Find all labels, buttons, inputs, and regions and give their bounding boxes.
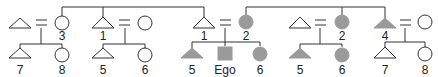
triangle-male-1: [92, 17, 114, 28]
triangle-male-5: [92, 48, 114, 58]
label-5-cousin: 5: [297, 63, 304, 77]
triangle-male-7: [9, 48, 31, 58]
marriage-b: [119, 20, 130, 25]
circle-female-3: [55, 16, 69, 30]
label-1-father: 1: [201, 29, 208, 43]
kinship-diagram: 3 7 8 1 5 6 1 2 5 Ego 6 2 5 6 4 7 8: [0, 0, 438, 77]
label-6: 6: [142, 63, 149, 77]
circle-filled-6-sibling: [253, 47, 267, 61]
label-1: 1: [100, 29, 107, 43]
label-5-sibling: 5: [189, 63, 196, 77]
marriage-a: [36, 20, 47, 25]
triangle-male-d: [289, 17, 311, 28]
label-8: 8: [59, 63, 66, 77]
label-7-cousin: 7: [382, 63, 389, 77]
circle-female-2-mother: [239, 15, 253, 29]
circle-filled-2-aunt: [335, 15, 349, 29]
triangle-filled-4-uncle: [374, 18, 396, 28]
circle-female-e: [418, 15, 432, 29]
label-3: 3: [59, 29, 66, 43]
label-4-uncle: 4: [382, 29, 389, 43]
label-5: 5: [100, 63, 107, 77]
label-2-aunt: 2: [339, 29, 346, 43]
circle-female-8: [55, 48, 69, 62]
label-ego: Ego: [214, 63, 236, 77]
label-7: 7: [17, 63, 24, 77]
sibling-lines: [62, 7, 385, 18]
triangle-male-1-father: [193, 17, 215, 28]
marriage-c: [220, 20, 231, 25]
label-2-mother: 2: [243, 29, 250, 43]
label-6-cousin: 6: [339, 63, 346, 77]
circle-female-b: [138, 16, 152, 30]
triangle-male-a: [9, 18, 31, 28]
triangle-filled-5-sibling: [181, 48, 203, 58]
marriage-symbols: [36, 20, 411, 25]
marriage-e: [400, 20, 411, 25]
label-6-sibling: 6: [257, 63, 264, 77]
circle-female-6: [138, 48, 152, 62]
circle-filled-6-cousin: [335, 48, 349, 62]
marriage-d: [315, 20, 326, 25]
triangle-male-7-cousin: [374, 47, 396, 58]
triangle-filled-5-cousin: [289, 48, 311, 58]
descent-lines: [20, 28, 425, 48]
label-8-cousin: 8: [422, 63, 429, 77]
square-ego: [218, 47, 232, 60]
circle-female-8-cousin: [418, 47, 432, 61]
